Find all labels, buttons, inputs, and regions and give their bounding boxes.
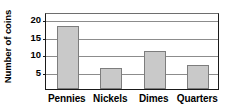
- plot-area: [45, 13, 219, 90]
- y-axis-title-text: Number of coins: [3, 9, 14, 82]
- x-axis-category-labels: PenniesNickelsDimesQuarters: [45, 93, 219, 109]
- bar-nickels: [100, 68, 122, 89]
- bar-chart: Number of coins 5101520 PenniesNickelsDi…: [0, 0, 232, 111]
- x-label-pennies: Pennies: [45, 93, 89, 104]
- y-tick-label-5: 5: [36, 68, 41, 78]
- bar-pennies: [57, 26, 79, 89]
- bar-dimes: [144, 51, 166, 90]
- y-tick-label-20: 20: [30, 15, 41, 25]
- bars-layer: [46, 14, 218, 89]
- bar-quarters: [187, 65, 209, 90]
- y-tick-label-15: 15: [30, 33, 41, 43]
- x-label-quarters: Quarters: [176, 93, 220, 104]
- y-tick-label-10: 10: [30, 50, 41, 60]
- x-label-nickels: Nickels: [89, 93, 133, 104]
- y-axis-tick-labels: 5101520: [16, 0, 43, 111]
- x-label-dimes: Dimes: [132, 93, 176, 104]
- y-axis-title: Number of coins: [0, 0, 16, 92]
